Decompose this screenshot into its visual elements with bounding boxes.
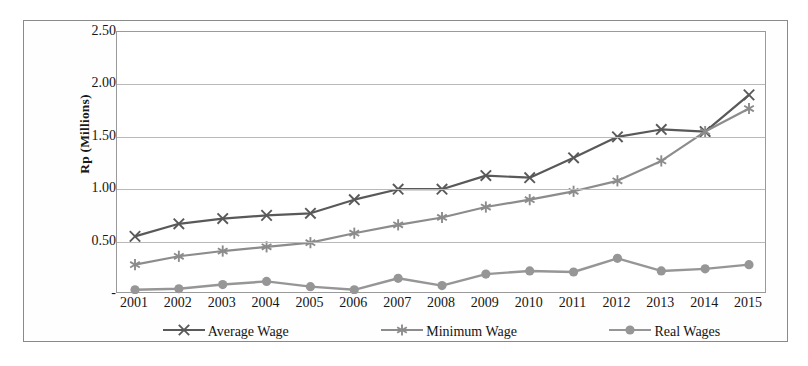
- legend-asterisk-marker-icon: [380, 322, 424, 342]
- x-tick-label: 2008: [427, 295, 455, 311]
- data-point-circle-marker: [525, 266, 534, 275]
- plot-area: [116, 31, 766, 293]
- x-tick-label: 2007: [383, 295, 411, 311]
- series-canvas: [117, 32, 765, 292]
- gridline: [117, 84, 765, 85]
- legend-label: Average Wage: [208, 324, 289, 340]
- chart-figure: Rp (Millions) -0.501.001.502.002.50 2001…: [23, 20, 788, 342]
- data-point-x-marker: [744, 90, 754, 100]
- data-point-circle-marker: [626, 325, 635, 334]
- data-point-circle-marker: [130, 285, 139, 294]
- gridline: [117, 189, 765, 190]
- series-real-wages: [130, 254, 753, 294]
- data-point-circle-marker: [394, 274, 403, 283]
- x-tick-label: 2014: [690, 295, 718, 311]
- data-point-circle-marker: [657, 266, 666, 275]
- legend-label: Minimum Wage: [426, 324, 517, 340]
- y-tick-label: 0.50: [92, 233, 117, 249]
- data-point-circle-marker: [350, 285, 359, 294]
- legend-item-minimum-wage[interactable]: Minimum Wage: [380, 322, 517, 342]
- y-tick-label: 2.50: [92, 23, 117, 39]
- data-point-circle-marker: [218, 280, 227, 289]
- data-point-circle-marker: [569, 267, 578, 276]
- data-point-asterisk-marker: [656, 155, 666, 166]
- x-tick-label: 2013: [646, 295, 674, 311]
- x-tick-label: 2015: [734, 295, 762, 311]
- data-point-circle-marker: [174, 284, 183, 293]
- data-point-circle-marker: [262, 277, 271, 286]
- data-point-x-marker: [568, 153, 578, 163]
- x-tick-label: 2009: [471, 295, 499, 311]
- legend-item-average-wage[interactable]: Average Wage: [162, 322, 289, 342]
- x-tick-label: 2006: [339, 295, 367, 311]
- data-point-circle-marker: [481, 269, 490, 278]
- x-tick-label: 2004: [252, 295, 280, 311]
- legend-x-marker-icon: [162, 322, 206, 342]
- x-tick-label: 2003: [208, 295, 236, 311]
- gridline: [117, 242, 765, 243]
- legend-item-real-wages[interactable]: Real Wages: [608, 322, 720, 342]
- y-tick-label: 2.00: [92, 75, 117, 91]
- x-tick-label: 2005: [295, 295, 323, 311]
- y-tick-label: 1.00: [92, 180, 117, 196]
- data-point-asterisk-marker: [744, 103, 754, 114]
- y-axis-tick-labels: -0.501.001.502.002.50: [58, 21, 116, 296]
- data-point-circle-marker: [701, 264, 710, 273]
- data-point-circle-marker: [613, 254, 622, 263]
- legend-label: Real Wages: [654, 324, 720, 340]
- legend-circle-marker-icon: [608, 322, 652, 342]
- x-tick-label: 2002: [164, 295, 192, 311]
- chart-legend: Average WageMinimum WageReal Wages: [116, 321, 766, 343]
- gridline: [117, 137, 765, 138]
- data-point-circle-marker: [306, 282, 315, 291]
- x-axis-tick-labels: 2001200220032004200520062007200820092010…: [116, 295, 766, 319]
- x-tick-label: 2010: [515, 295, 543, 311]
- x-tick-label: 2001: [120, 295, 148, 311]
- y-tick-label: 1.50: [92, 128, 117, 144]
- x-tick-label: 2012: [602, 295, 630, 311]
- series-svg: [117, 32, 767, 294]
- data-point-circle-marker: [744, 260, 753, 269]
- data-point-circle-marker: [437, 281, 446, 290]
- x-tick-label: 2011: [559, 295, 586, 311]
